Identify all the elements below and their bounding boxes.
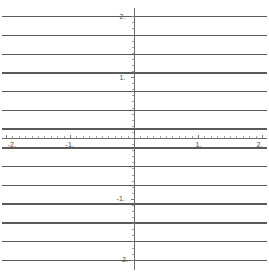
plot-graphics — [0, 0, 269, 275]
y-axis-tick-label-neg1: -1. — [117, 195, 126, 203]
x-axis-tick-label-neg2: -2. — [7, 141, 16, 149]
y-axis-tick-label-neg2: -2. — [120, 256, 129, 264]
x-axis-tick-label-neg1: -1. — [65, 141, 74, 149]
plot-canvas: 2. 1. -1. -2. -2. -1. 1. 2. — [0, 0, 269, 275]
y-axis-tick-label-2: 2. — [120, 13, 126, 21]
y-axis-tick-label-1: 1. — [120, 74, 126, 82]
x-axis-tick-label-1: 1. — [196, 141, 202, 149]
x-axis-tick-label-2: 2. — [257, 141, 263, 149]
